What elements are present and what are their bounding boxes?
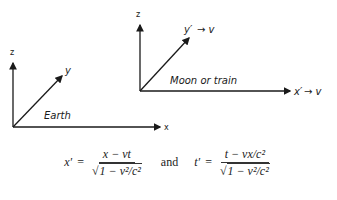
- and-text: and: [161, 155, 178, 170]
- moving-y-velocity: → v: [197, 24, 216, 35]
- t-prime-denominator: √1 − v²/c²: [220, 163, 270, 178]
- sqrt-body: 1 − v²/c²: [99, 163, 142, 178]
- moving-frame-label: Moon or train: [170, 75, 237, 86]
- equals-sign: =: [205, 155, 212, 170]
- x-prime-denominator: √1 − v²/c²: [92, 163, 142, 178]
- reference-frames-diagram: z y x Earth z y′ → v x′ → v Moon or trai…: [0, 0, 337, 145]
- t-prime-fraction: t − vx/c² √1 − v²/c²: [220, 147, 270, 178]
- equals-sign: =: [77, 155, 84, 170]
- moving-x-label: x′: [293, 86, 303, 97]
- earth-y-label: y: [64, 65, 72, 76]
- moving-y-label: y′: [183, 24, 193, 35]
- x-prime-numerator: x − vt: [99, 147, 135, 163]
- lorentz-transformation: x′ = x − vt √1 − v²/c² and t′ = t − vx/c…: [0, 147, 337, 178]
- sqrt-body: 1 − v²/c²: [227, 163, 270, 178]
- moving-x-velocity: → v: [304, 86, 323, 97]
- x-prime-lhs: x′: [64, 155, 72, 170]
- moving-z-label: z: [136, 10, 140, 19]
- earth-x-label: x: [164, 123, 169, 132]
- moving-frame: z y′ → v x′ → v Moon or train: [136, 10, 323, 97]
- t-prime-lhs: t′: [194, 155, 200, 170]
- sqrt-sign: √: [220, 164, 227, 178]
- earth-z-label: z: [10, 48, 14, 57]
- earth-frame: z y x Earth: [10, 48, 169, 132]
- t-prime-numerator: t − vx/c²: [221, 147, 269, 163]
- sqrt-sign: √: [92, 164, 99, 178]
- earth-frame-label: Earth: [44, 110, 71, 121]
- x-prime-fraction: x − vt √1 − v²/c²: [92, 147, 142, 178]
